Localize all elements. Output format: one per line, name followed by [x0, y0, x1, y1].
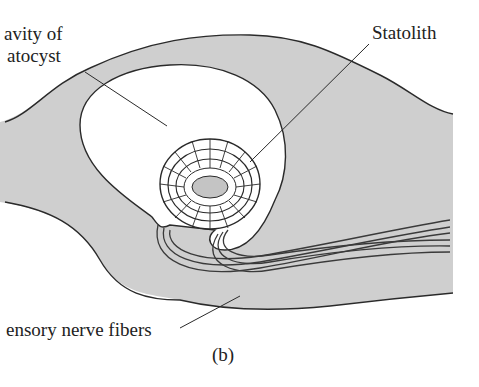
label-sensory-nerve-fibers: ensory nerve fibers [6, 319, 152, 340]
statolith-cells [160, 139, 260, 229]
statolith [192, 176, 228, 198]
label-cavity-line1: avity of [4, 23, 63, 44]
statocyst-diagram: avity of atocyst Statolith ensory nerve … [0, 0, 479, 387]
label-statolith: Statolith [372, 22, 437, 43]
label-cavity-line2: atocyst [7, 45, 62, 66]
panel-label: (b) [212, 344, 234, 366]
